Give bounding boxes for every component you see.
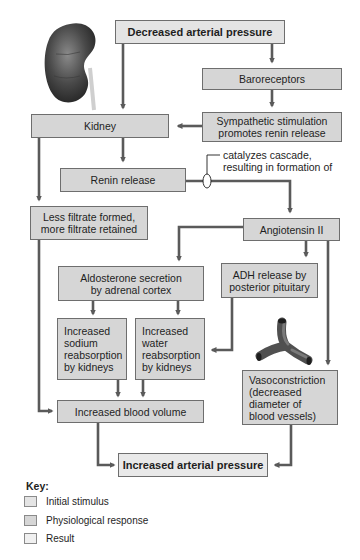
key-label: Initial stimulus xyxy=(46,496,109,507)
key-swatch-initial xyxy=(24,496,37,507)
node-kidney: Kidney xyxy=(31,114,169,138)
key-label: Result xyxy=(46,533,74,544)
node-vasoconstriction: Vasoconstriction (decreased diameter of … xyxy=(242,370,338,425)
node-decreased-arterial-pressure: Decreased arterial pressure xyxy=(115,20,285,44)
node-increased-arterial-pressure: Increased arterial pressure xyxy=(118,453,268,477)
node-sodium-reabsorption: Increased sodium reabsorption by kidneys xyxy=(57,318,127,380)
key-label: Physiological response xyxy=(46,515,148,526)
node-angiotensin-ii: Angiotensin II xyxy=(243,218,340,241)
key-title: Key: xyxy=(26,480,49,492)
node-aldosterone-secretion: Aldosterone secretion by adrenal cortex xyxy=(58,266,204,301)
node-less-filtrate: Less filtrate formed, more filtrate reta… xyxy=(30,206,148,240)
node-baroreceptors: Baroreceptors xyxy=(202,68,342,90)
annotation-bracket xyxy=(203,155,220,188)
node-increased-blood-volume: Increased blood volume xyxy=(57,400,204,423)
key-item-physiological-response: Physiological response xyxy=(24,515,148,526)
blood-vessel-illustration-icon xyxy=(252,316,316,366)
node-sympathetic-stimulation: Sympathetic stimulation promotes renin r… xyxy=(202,112,342,142)
annotation-catalyzes-cascade: catalyzes cascade, resulting in formatio… xyxy=(223,149,332,173)
node-water-reabsorption: Increased water reabsorption by kidneys xyxy=(135,318,205,380)
key-swatch-result xyxy=(24,533,37,544)
node-renin-release: Renin release xyxy=(60,168,186,192)
node-adh-release: ADH release by posterior pituitary xyxy=(221,263,318,298)
key-item-result: Result xyxy=(24,533,74,544)
kidney-illustration-icon xyxy=(40,18,100,113)
key-swatch-response xyxy=(24,515,37,526)
key-item-initial-stimulus: Initial stimulus xyxy=(24,496,109,507)
